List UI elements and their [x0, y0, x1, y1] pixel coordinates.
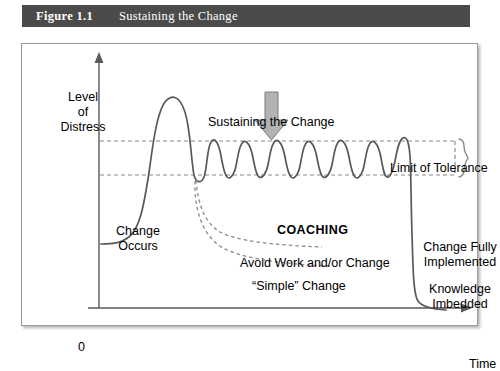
y-axis-label-line1: Level — [52, 90, 114, 105]
change-fully-line1: Change Fully — [414, 240, 500, 255]
avoid-work-label: Avoid Work and/or Change — [240, 256, 390, 270]
sustaining-the-change-label: Sustaining the Change — [208, 115, 334, 129]
change-fully-implemented-label: Change Fully Implemented — [414, 240, 500, 270]
knowledge-imbedded-label: Knowledge Imbedded — [414, 282, 500, 312]
figure-number: Figure 1.1 — [36, 9, 93, 24]
change-fully-line2: Implemented — [414, 255, 500, 270]
coaching-label: COACHING — [277, 223, 348, 237]
figure-title: Sustaining the Change — [119, 9, 238, 24]
change-occurs-line1: Change — [107, 224, 169, 239]
y-axis-label: Level of Distress — [52, 90, 114, 135]
knowledge-line2: Imbedded — [414, 297, 500, 312]
change-occurs-label: Change Occurs — [107, 224, 169, 254]
knowledge-line1: Knowledge — [414, 282, 500, 297]
figure-frame: Level of Distress 0 Time Change Occurs S… — [21, 43, 478, 326]
change-occurs-line2: Occurs — [107, 239, 169, 254]
y-axis-label-line3: Distress — [52, 120, 114, 135]
distress-curve-chart — [22, 44, 477, 325]
x-axis-label: Time — [469, 357, 496, 371]
simple-change-label: “Simple” Change — [252, 279, 346, 293]
y-axis-label-line2: of — [52, 105, 114, 120]
figure-caption-bar: Figure 1.1 Sustaining the Change — [22, 5, 470, 27]
origin-label: 0 — [78, 340, 85, 354]
limit-of-tolerance-label: Limit of Tolerance — [390, 161, 488, 175]
